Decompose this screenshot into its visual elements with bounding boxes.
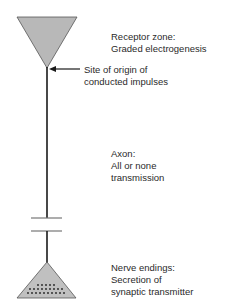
nerve-endings-label: Nerve endings: Secretion of synaptic tra… (111, 262, 193, 298)
receptor-zone-desc: Graded electrogenesis (111, 43, 207, 55)
nerve-endings-title: Nerve endings: (111, 262, 193, 274)
site-of-origin-label: Site of origin of conducted impulses (84, 64, 168, 88)
axon-title: Axon: (111, 148, 164, 160)
nerve-ending-triangle (17, 262, 76, 298)
axon-desc-line2: transmission (111, 172, 164, 184)
axon-desc-line1: All or none (111, 160, 164, 172)
receptor-zone-title: Receptor zone: (111, 31, 207, 43)
axon-label: Axon: All or none transmission (111, 148, 164, 184)
site-of-origin-line1: Site of origin of (84, 64, 168, 76)
receptor-zone-label: Receptor zone: Graded electrogenesis (111, 31, 207, 55)
nerve-endings-desc-line1: Secretion of (111, 274, 193, 286)
origin-arrow-head (49, 66, 56, 72)
receptor-zone-triangle (17, 17, 77, 68)
nerve-endings-desc-line2: synaptic transmitter (111, 286, 193, 298)
neuron-diagram: Receptor zone: Graded electrogenesis Sit… (0, 0, 226, 305)
site-of-origin-line2: conducted impulses (84, 76, 168, 88)
